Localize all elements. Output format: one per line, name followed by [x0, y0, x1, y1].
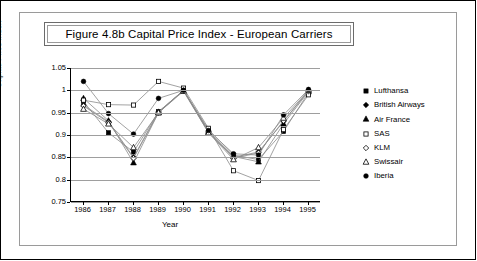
chart-title-box: Figure 4.8b Capital Price Index - Europe…: [44, 22, 354, 46]
gridline: [71, 135, 320, 136]
x-axis-tick-mark: [133, 202, 134, 205]
legend-item-label: British Airways: [374, 101, 425, 109]
x-axis-tick-label: 1995: [291, 206, 325, 214]
series-klm: [81, 88, 311, 161]
open-diamond-icon: [358, 142, 374, 154]
legend-item-label: Air France: [374, 116, 410, 124]
y-axis-tick-label: 0.8: [40, 176, 66, 184]
legend-item-swissair[interactable]: Swissair: [358, 155, 450, 169]
x-axis-tick-mark: [283, 202, 284, 205]
gridline: [71, 113, 320, 114]
y-axis-tick-mark: [67, 202, 70, 203]
legend-item-british-airways[interactable]: British Airways: [358, 98, 450, 112]
filled-square-icon: [358, 85, 374, 97]
x-axis-tick-mark: [308, 202, 309, 205]
x-axis-tick-mark: [108, 202, 109, 205]
filled-circle-icon: [358, 170, 374, 182]
legend-item-air-france[interactable]: Air France: [358, 112, 450, 126]
y-axis-title: Capital Price Index: [0, 21, 3, 88]
legend-item-klm[interactable]: KLM: [358, 141, 450, 155]
x-axis-tick-mark: [158, 202, 159, 205]
y-axis-tick-label: 1.05: [40, 64, 66, 72]
y-axis-tick-label: 0.85: [40, 154, 66, 162]
plot-area-wrapper: [70, 68, 320, 202]
legend-item-iberia[interactable]: Iberia: [358, 169, 450, 183]
open-triangle-icon: [358, 156, 374, 168]
legend-item-label: KLM: [374, 144, 390, 152]
legend-item-label: SAS: [374, 130, 390, 138]
x-axis-tick-mark: [258, 202, 259, 205]
gridline: [71, 90, 320, 91]
legend-item-label: Swissair: [374, 158, 403, 166]
filled-triangle-icon: [358, 113, 374, 125]
gridline: [71, 68, 320, 69]
legend-item-sas[interactable]: SAS: [358, 127, 450, 141]
legend: LufthansaBritish AirwaysAir FranceSASKLM…: [358, 84, 450, 183]
x-axis-tick-mark: [233, 202, 234, 205]
gridline: [71, 157, 320, 158]
x-axis-tick-mark: [83, 202, 84, 205]
x-axis-tick-mark: [183, 202, 184, 205]
legend-item-label: Iberia: [374, 172, 394, 180]
filled-diamond-icon: [358, 99, 374, 111]
y-axis-tick-labels: 0.750.80.850.90.9511.05: [40, 68, 66, 202]
y-axis-tick-label: 0.95: [40, 109, 66, 117]
chart-title-inner-border: Figure 4.8b Capital Price Index - Europe…: [47, 25, 351, 43]
y-axis-tick-label: 0.75: [40, 198, 66, 206]
plot-area: [70, 68, 320, 202]
x-axis-tick-mark: [208, 202, 209, 205]
page-title: Figure 4.8b Capital Price Index - Europe…: [65, 28, 332, 40]
x-axis-title: Year: [0, 220, 340, 229]
series-british-airways: [81, 88, 311, 160]
legend-item-lufthansa[interactable]: Lufthansa: [358, 84, 450, 98]
y-axis-tick-label: 1: [40, 87, 66, 95]
series-swissair: [81, 87, 312, 162]
legend-item-label: Lufthansa: [374, 87, 408, 95]
y-axis-tick-label: 0.9: [40, 131, 66, 139]
open-square-icon: [358, 128, 374, 140]
chart-screenshot: Figure 4.8b Capital Price Index - Europe…: [0, 0, 477, 261]
gridline: [71, 180, 320, 181]
series-lufthansa: [81, 88, 310, 161]
